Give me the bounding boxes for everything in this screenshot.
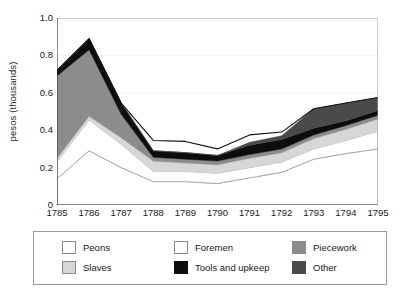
y-tick-label: 0.6 [19, 88, 53, 98]
y-tick-label: 0.8 [19, 50, 53, 60]
legend-swatch [62, 261, 76, 274]
legend-label: Tools and upkeep [195, 262, 269, 273]
legend-item[interactable]: Piecework [292, 241, 357, 254]
legend-swatch [292, 241, 306, 254]
legend-swatch [62, 241, 76, 254]
legend-swatch [174, 261, 188, 274]
legend-label: Slaves [83, 262, 112, 273]
chart-legend: PeonsSlavesForemenTools and upkeepPiecew… [33, 231, 387, 285]
chart-figure: pesos (thousands) 00.20.40.60.81.0 17851… [0, 0, 400, 290]
plot-region [57, 18, 378, 205]
y-axis-tick-labels: 00.20.40.60.81.0 [17, 18, 53, 205]
y-tick-label: 1.0 [19, 13, 53, 23]
y-tick-label: 0.2 [19, 163, 53, 173]
legend-label: Peons [83, 242, 110, 253]
legend-label: Other [313, 262, 337, 273]
x-tick-label: 1795 [358, 208, 398, 218]
legend-item[interactable]: Slaves [62, 261, 112, 274]
chart-area: pesos (thousands) 00.20.40.60.81.0 17851… [0, 0, 400, 222]
legend-label: Piecework [313, 242, 357, 253]
legend-item[interactable]: Tools and upkeep [174, 261, 269, 274]
x-axis-tick-labels: 1785178617871788178917901791179217931794… [57, 208, 378, 224]
y-axis-title: pesos (thousands) [7, 32, 18, 172]
legend-label: Foremen [195, 242, 233, 253]
stacked-area-svg [57, 18, 378, 205]
legend-items: PeonsSlavesForemenTools and upkeepPiecew… [34, 232, 386, 284]
legend-item[interactable]: Foremen [174, 241, 233, 254]
y-tick-label: 0.4 [19, 125, 53, 135]
legend-swatch [292, 261, 306, 274]
legend-item[interactable]: Peons [62, 241, 110, 254]
legend-swatch [174, 241, 188, 254]
legend-item[interactable]: Other [292, 261, 337, 274]
